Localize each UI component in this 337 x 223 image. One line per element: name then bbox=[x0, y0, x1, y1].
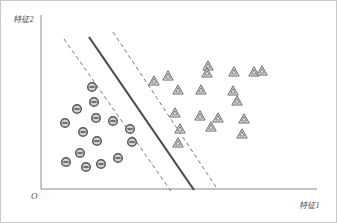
circle-minus-marker bbox=[97, 160, 106, 169]
circle-minus-marker bbox=[128, 138, 137, 147]
circle-minus-marker bbox=[92, 114, 101, 123]
circle-minus-marker bbox=[90, 98, 99, 107]
margin-boundary-line bbox=[64, 39, 171, 191]
triangle-marker bbox=[257, 66, 267, 75]
triangle-marker bbox=[232, 96, 242, 105]
triangle-marker bbox=[173, 138, 183, 147]
triangle-marker bbox=[173, 85, 183, 94]
circle-minus-marker bbox=[88, 83, 97, 92]
origin-label: O bbox=[31, 191, 38, 201]
plot-canvas bbox=[1, 1, 337, 223]
circle-minus-marker bbox=[79, 128, 88, 137]
margin-boundary-line bbox=[113, 32, 216, 187]
triangle-marker bbox=[196, 85, 206, 94]
triangle-marker bbox=[228, 86, 238, 95]
circle-minus-marker bbox=[73, 105, 82, 114]
triangle-marker bbox=[149, 76, 159, 85]
circle-minus-marker bbox=[126, 125, 135, 134]
circle-minus-marker bbox=[61, 119, 70, 128]
triangle-marker bbox=[213, 113, 223, 122]
triangle-marker bbox=[175, 124, 185, 133]
circle-minus-marker bbox=[93, 137, 102, 146]
circle-minus-marker bbox=[62, 158, 71, 167]
triangle-marker bbox=[237, 129, 247, 138]
y-axis-label: 特征2 bbox=[13, 13, 34, 24]
triangle-marker bbox=[163, 71, 173, 80]
circle-minus-marker bbox=[76, 149, 85, 158]
circle-minus-marker bbox=[114, 154, 123, 163]
triangle-marker bbox=[170, 108, 180, 117]
circle-minus-marker bbox=[109, 117, 118, 126]
triangle-marker bbox=[206, 122, 216, 131]
axes-group bbox=[41, 15, 317, 189]
circle-minus-marker bbox=[82, 163, 91, 172]
x-axis-label: 特征1 bbox=[299, 199, 320, 210]
triangle-marker bbox=[239, 114, 249, 123]
triangle-marker bbox=[229, 67, 239, 76]
negative-class-points bbox=[61, 83, 137, 172]
svm-diagram-figure: 特征2 特征1 O bbox=[0, 0, 337, 223]
data-markers-group bbox=[61, 61, 268, 172]
triangle-marker bbox=[195, 111, 205, 120]
positive-class-points bbox=[149, 61, 267, 147]
